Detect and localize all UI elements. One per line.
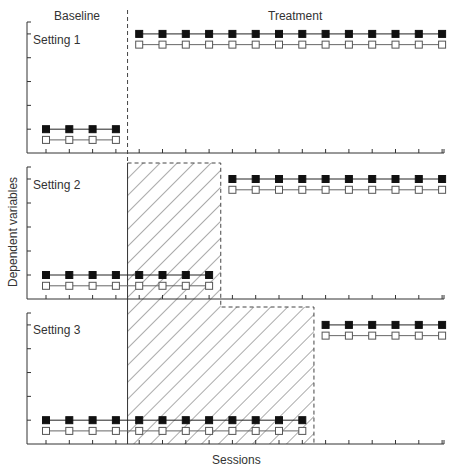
panel-label-setting-3: Setting 3 <box>33 323 80 337</box>
phase-label-baseline: Baseline <box>54 9 100 23</box>
phase-label-treatment: Treatment <box>268 9 322 23</box>
panel-label-setting-1: Setting 1 <box>33 33 80 47</box>
y-axis-label: Dependent variables <box>6 177 20 287</box>
x-axis-label: Sessions <box>212 453 261 467</box>
panel-label-setting-2: Setting 2 <box>33 178 80 192</box>
multiple-baseline-chart <box>0 0 458 473</box>
